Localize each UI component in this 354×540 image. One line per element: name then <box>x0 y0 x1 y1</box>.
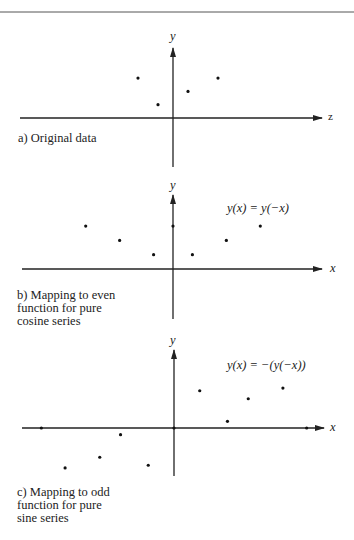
data-point <box>119 433 122 436</box>
data-point <box>147 464 150 467</box>
data-point <box>305 426 308 429</box>
figure-canvas <box>0 0 354 540</box>
panel-c-equation: y(x) = −(y(−x)) <box>227 358 306 373</box>
panel-c-caption: c) Mapping to odd function for pure sine… <box>17 486 110 525</box>
data-point <box>98 456 101 459</box>
data-point <box>172 426 175 429</box>
data-point <box>198 389 201 392</box>
data-point <box>216 77 219 80</box>
data-point <box>226 420 229 423</box>
data-point <box>171 225 174 228</box>
panel-b-caption: b) Mapping to even function for pure cos… <box>17 289 115 328</box>
panel-a-x-label: z <box>328 110 333 122</box>
panel-a <box>20 48 322 167</box>
panel-c-y-label: y <box>170 333 176 348</box>
panel-b-equation: y(x) = y(−x) <box>227 201 289 216</box>
panel-c-x-label: x <box>330 420 336 435</box>
data-point <box>152 253 155 256</box>
panel-a-points <box>136 77 219 107</box>
data-point <box>191 253 194 256</box>
data-point <box>64 466 67 469</box>
panel-b-x-label: x <box>330 261 336 276</box>
data-point <box>84 225 87 228</box>
data-point <box>186 90 189 93</box>
data-point <box>247 397 250 400</box>
data-point <box>281 387 284 390</box>
panel-b-y-label: y <box>170 178 176 193</box>
data-point <box>259 225 262 228</box>
data-point <box>225 239 228 242</box>
data-point <box>118 239 121 242</box>
data-point <box>136 77 139 80</box>
panel-a-y-label: y <box>170 29 176 44</box>
data-point <box>40 426 43 429</box>
panel-a-caption: a) Original data <box>18 132 96 145</box>
data-point <box>156 103 159 106</box>
